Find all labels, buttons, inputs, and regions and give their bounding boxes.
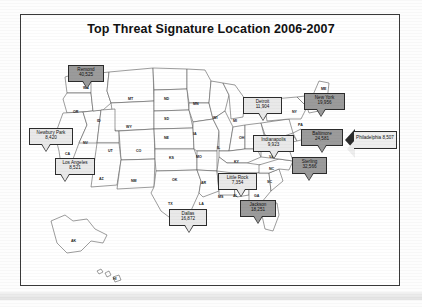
callout-detroit[interactable]: Detroit11,904 bbox=[243, 97, 282, 114]
state-label-co: CO bbox=[136, 149, 141, 153]
callout-pointer-icon bbox=[83, 81, 91, 88]
state-label-tx: TX bbox=[168, 202, 173, 206]
callout-body: Little Rock7,354 bbox=[218, 173, 257, 190]
callout-value: 16,872 bbox=[172, 217, 204, 222]
callout-body: Sterling32,566 bbox=[292, 157, 327, 174]
callout-pointer-icon bbox=[42, 144, 50, 151]
state-label-ks: KS bbox=[169, 156, 174, 160]
callout-jackson[interactable]: Jackson18,251 bbox=[240, 200, 276, 217]
state-label-ms: MS bbox=[218, 195, 223, 199]
state-label-pa: PA bbox=[298, 123, 303, 127]
callout-pointer-icon bbox=[185, 225, 193, 232]
callout-body: Newbury Park8,420 bbox=[29, 128, 73, 145]
state-label-ga: GA bbox=[254, 194, 259, 198]
callout-value: 8,420 bbox=[32, 136, 70, 141]
callout-pointer-icon bbox=[317, 109, 325, 116]
callout-value: 32,566 bbox=[295, 165, 324, 170]
state-label-mo: MO bbox=[196, 155, 202, 159]
state-label-nd: ND bbox=[164, 97, 169, 101]
state-label-nv: NV bbox=[83, 141, 88, 145]
state-label-wi: WI bbox=[213, 116, 217, 120]
state-label-mn: MN bbox=[193, 102, 199, 106]
callout-little-rock[interactable]: Little Rock7,354 bbox=[218, 173, 257, 190]
state-label-or: OR bbox=[73, 110, 78, 114]
callout-value: 40,525 bbox=[71, 73, 101, 78]
state-label-ia: IA bbox=[193, 132, 197, 136]
callout-body: Indianapolis9,923 bbox=[253, 135, 294, 152]
callout-body: Los Angeles8,521 bbox=[55, 158, 95, 175]
callout-pointer-icon bbox=[270, 151, 278, 158]
callout-indianapolis[interactable]: Indianapolis9,923 bbox=[253, 135, 294, 152]
callout-pointer-icon bbox=[305, 173, 313, 180]
callout-pointer-icon bbox=[259, 113, 267, 120]
screenshot-page: Top Threat Signature Location 2006-2007 bbox=[0, 0, 422, 307]
callout-los-angeles[interactable]: Los Angeles8,521 bbox=[55, 158, 95, 175]
callout-value: 8,507 bbox=[382, 135, 394, 140]
state-label-mt: MT bbox=[128, 97, 133, 101]
state-label-nc: NC bbox=[269, 167, 274, 171]
state-label-ar: AR bbox=[201, 181, 206, 185]
callout-city-name: Philadelphia bbox=[356, 135, 381, 140]
state-label-ok: OK bbox=[172, 178, 177, 182]
callout-remond[interactable]: Remond40,525 bbox=[68, 65, 104, 82]
page-title: Top Threat Signature Location 2006-2007 bbox=[21, 22, 401, 36]
callout-body: Detroit11,904 bbox=[243, 97, 282, 114]
callout-baltimore[interactable]: Baltimore24,581 bbox=[301, 129, 343, 146]
state-label-ny: NY bbox=[292, 110, 297, 114]
state-label-la: LA bbox=[199, 202, 204, 206]
state-label-il: IL bbox=[217, 146, 220, 150]
state-label-ne: NE bbox=[164, 136, 169, 140]
callout-pointer-icon bbox=[318, 145, 326, 152]
map-figure-frame: Top Threat Signature Location 2006-2007 bbox=[20, 14, 400, 286]
state-label-oh: OH bbox=[239, 136, 244, 140]
state-label-nm: NM bbox=[131, 179, 137, 183]
callout-value: 11,904 bbox=[246, 105, 279, 110]
callout-body: Baltimore24,581 bbox=[301, 129, 343, 146]
callout-body: New York19,956 bbox=[304, 93, 345, 110]
callout-value: 9,923 bbox=[256, 143, 291, 148]
callout-dallas[interactable]: Dallas16,872 bbox=[169, 209, 207, 226]
callout-body: Philadelphia 8,507 bbox=[354, 131, 397, 149]
callout-sterling[interactable]: Sterling32,566 bbox=[292, 157, 327, 174]
map-stage: WAORIDMTNDMNWISDWYNEIAILMIOHNVUTCACOKSMO… bbox=[21, 39, 401, 285]
callout-pointer-icon bbox=[237, 189, 245, 196]
state-label-sc: SC bbox=[267, 180, 272, 184]
state-label-sd: SD bbox=[164, 117, 169, 121]
page-edge-shadow bbox=[0, 292, 422, 300]
state-label-ca: CA bbox=[65, 152, 70, 156]
state-label-ut: UT bbox=[108, 149, 113, 153]
callout-value: 7,354 bbox=[221, 181, 254, 186]
callout-pointer-icon bbox=[254, 216, 262, 223]
state-label-me: ME bbox=[321, 87, 326, 91]
callout-value: 18,251 bbox=[243, 208, 273, 213]
callout-body: Dallas16,872 bbox=[169, 209, 207, 226]
callout-value: 19,956 bbox=[307, 101, 342, 106]
state-label-mi: MI bbox=[233, 119, 237, 123]
callout-value: 24,581 bbox=[304, 137, 340, 142]
state-label-ak: AK bbox=[71, 239, 76, 243]
state-label-id: ID bbox=[97, 119, 101, 123]
state-label-ky: KY bbox=[234, 160, 239, 164]
callout-pointer-icon bbox=[61, 174, 69, 181]
callout-body: Remond40,525 bbox=[68, 65, 104, 82]
state-label-wy: WY bbox=[126, 125, 132, 129]
callout-body: Jackson18,251 bbox=[240, 200, 276, 217]
callout-newbury-park[interactable]: Newbury Park8,420 bbox=[29, 128, 73, 145]
state-label-hi: HI bbox=[113, 277, 117, 281]
state-label-az: AZ bbox=[99, 177, 104, 181]
callout-new-york[interactable]: New York19,956 bbox=[304, 93, 345, 110]
callout-value: 8,521 bbox=[58, 166, 92, 171]
